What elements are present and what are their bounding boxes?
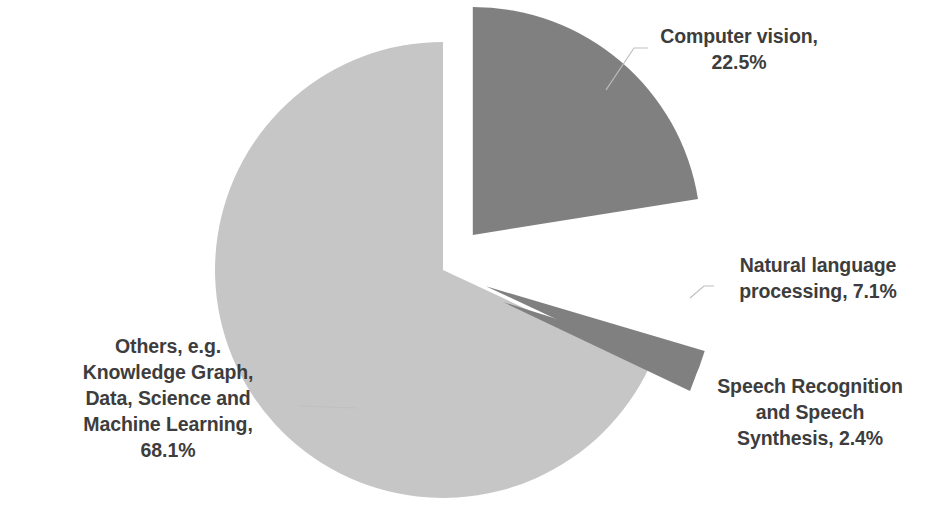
pie-label-computer-vision: Computer vision, 22.5% — [639, 24, 839, 76]
leader-line-nlp — [690, 286, 714, 298]
pie-label-natural-language-processing: Natural language processing, 7.1% — [713, 253, 923, 305]
pie-label-speech-recognition: Speech Recognition and Speech Synthesis,… — [700, 374, 920, 452]
pie-chart: Computer vision, 22.5% Natural language … — [0, 0, 931, 519]
pie-label-others: Others, e.g. Knowledge Graph, Data, Scie… — [53, 334, 283, 464]
